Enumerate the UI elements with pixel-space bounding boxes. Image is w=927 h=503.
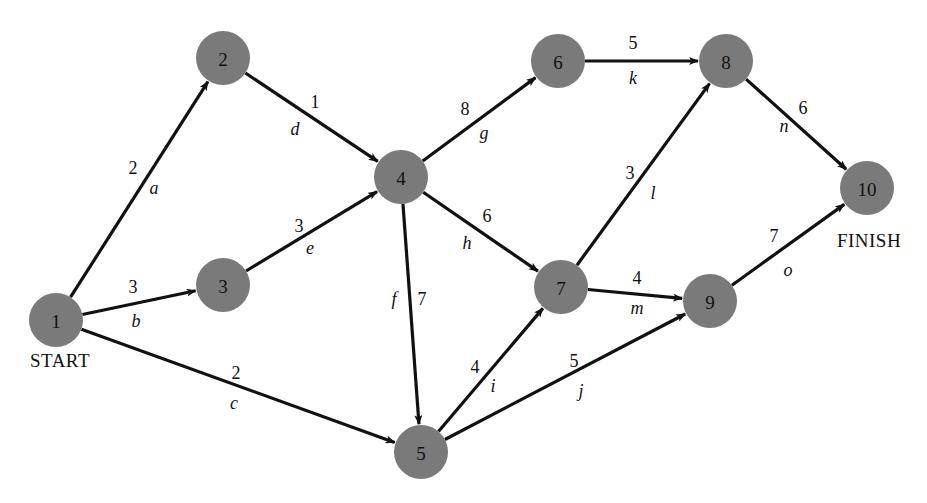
node-1: 1 [29, 293, 83, 347]
edge-g-activity-label: g [480, 123, 489, 143]
edge-e-duration: 3 [295, 216, 304, 236]
node-4: 4 [374, 150, 428, 204]
node-7: 7 [534, 260, 588, 314]
node-3-label: 3 [218, 276, 228, 297]
node-1-label: 1 [51, 311, 61, 332]
edge-o-activity-label: o [784, 260, 793, 280]
edge-a-activity-label: a [150, 178, 159, 198]
start-label: START [30, 350, 90, 371]
edge-e-activity-label: e [306, 238, 314, 258]
node-4-label: 4 [396, 168, 406, 189]
edge-a-arrow [71, 82, 208, 298]
edge-l-duration: 3 [626, 163, 635, 183]
node-2-label: 2 [218, 49, 228, 70]
edge-n-activity-label: n [780, 116, 789, 136]
project-network-diagram: 12345678910 2a3b2c1d3e7f8g6h4i5j5k3l4m6n… [0, 0, 927, 503]
edge-n-arrow [746, 79, 846, 169]
edge-c-arrow [81, 329, 394, 442]
edge-h-arrow [423, 192, 538, 271]
edge-c-activity-label: c [230, 393, 238, 413]
node-5: 5 [394, 425, 448, 479]
edge-k-activity-label: k [629, 68, 638, 88]
edge-k-duration: 5 [629, 33, 638, 53]
node-9-label: 9 [705, 292, 715, 313]
edge-b-duration: 3 [129, 277, 138, 297]
edge-j-activity-label: j [576, 381, 583, 401]
node-3: 3 [196, 258, 250, 312]
node-10-label: 10 [858, 179, 877, 200]
edge-i-duration: 4 [471, 357, 480, 377]
edge-o-duration: 7 [770, 226, 779, 246]
edge-b-activity-label: b [132, 311, 141, 331]
node-2: 2 [196, 31, 250, 85]
node-8: 8 [699, 34, 753, 88]
edge-g-arrow [423, 78, 536, 161]
edge-i-activity-label: i [490, 376, 495, 396]
edge-h-activity-label: h [463, 233, 472, 253]
node-6: 6 [531, 34, 585, 88]
edge-l-activity-label: l [650, 183, 655, 203]
edge-f-duration: 7 [418, 289, 427, 309]
edge-j-arrow [445, 314, 685, 440]
edge-g-duration: 8 [461, 99, 470, 119]
finish-label: FINISH [837, 230, 901, 251]
node-6-label: 6 [553, 52, 563, 73]
edge-d-activity-label: d [291, 119, 301, 139]
edge-h-duration: 6 [483, 206, 492, 226]
edge-n-duration: 6 [799, 98, 808, 118]
node-7-label: 7 [556, 278, 566, 299]
edge-f-arrow [403, 204, 419, 424]
edge-l-arrow [577, 84, 710, 266]
edge-m-activity-label: m [631, 298, 644, 318]
edge-d-arrow [245, 73, 377, 161]
node-9: 9 [683, 274, 737, 328]
edge-f-activity-label: f [391, 289, 399, 309]
node-5-label: 5 [416, 443, 426, 464]
edge-i-arrow [438, 308, 542, 431]
node-10: 10 [840, 161, 894, 215]
edge-c-duration: 2 [232, 363, 241, 383]
edge-a-duration: 2 [129, 158, 138, 178]
edges-layer [71, 61, 847, 442]
edge-j-duration: 5 [570, 351, 579, 371]
edge-d-duration: 1 [311, 92, 320, 112]
edge-m-duration: 4 [633, 268, 642, 288]
edge-e-arrow [246, 192, 377, 271]
node-8-label: 8 [721, 52, 731, 73]
